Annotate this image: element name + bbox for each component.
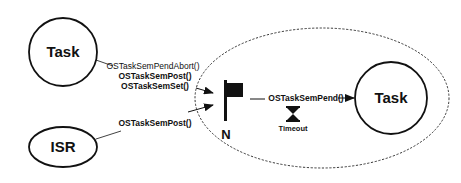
semaphore-count-label: N: [221, 127, 230, 142]
isr-node: ISR: [29, 127, 97, 167]
edge-label-sem-set: OSTaskSemSet(): [121, 81, 189, 91]
task-right-node: Task: [355, 62, 427, 134]
hourglass-icon: [286, 106, 300, 122]
edge-label-pend-abort: OSTaskSemPendAbort(): [106, 61, 199, 71]
task-right-label: Task: [374, 89, 408, 106]
task-left-node: Task: [29, 18, 97, 86]
timeout-label: Timeout: [278, 124, 308, 133]
isr-connector-line: [96, 131, 121, 139]
task-left-label: Task: [46, 43, 80, 60]
edge-label-sem-post: OSTaskSemPost(): [118, 71, 191, 81]
isr-to-semaphore-arrow: [188, 105, 213, 112]
edge-label-isr-sem-post: OSTaskSemPost(): [118, 118, 191, 128]
flag-icon: [224, 80, 243, 121]
task-semaphore-diagram: Task ISR OSTaskSemPendAbort() OSTaskSemP…: [0, 0, 461, 183]
edge-label-sem-pend: OSTaskSemPend(): [268, 93, 344, 103]
isr-label: ISR: [50, 138, 75, 155]
task-to-semaphore-arrow: [196, 88, 213, 93]
